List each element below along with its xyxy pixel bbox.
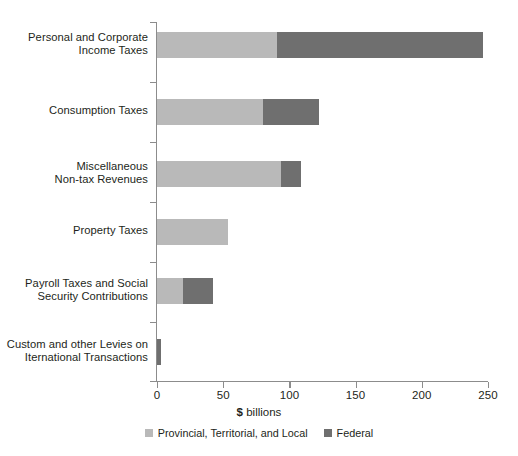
x-axis-title: $ billions <box>0 406 518 418</box>
x-axis-line <box>157 381 488 382</box>
x-axis-tick-label-0: 0 <box>127 389 187 401</box>
bar-segment-provincial <box>157 219 228 245</box>
bar-segment-provincial <box>157 32 277 58</box>
bar-row <box>157 219 488 245</box>
legend-swatch-icon <box>324 429 332 437</box>
x-axis-tick-100 <box>289 382 290 388</box>
legend-label: Federal <box>337 427 374 439</box>
category-label-0: Personal and Corporate Income Taxes <box>28 31 148 58</box>
x-axis-tick-label-200: 200 <box>392 389 452 401</box>
category-label-2: Miscellaneous Non-tax Revenues <box>55 160 148 187</box>
y-axis-tick-6 <box>150 381 157 382</box>
bar-segment-federal <box>263 99 319 125</box>
legend-swatch-icon <box>145 429 153 437</box>
x-axis-tick-label-50: 50 <box>193 389 253 401</box>
bar-segment-provincial <box>157 161 281 187</box>
chart-figure: 050100150200250 Personal and Corporate I… <box>0 0 518 456</box>
x-axis-tick-50 <box>223 382 224 388</box>
x-axis-tick-150 <box>356 382 357 388</box>
bar-segment-federal <box>183 278 212 304</box>
legend-item-0[interactable]: Provincial, Territorial, and Local <box>145 427 308 439</box>
chart-legend: Provincial, Territorial, and LocalFedera… <box>0 427 518 439</box>
category-label-3: Property Taxes <box>73 224 148 237</box>
x-axis-tick-label-150: 150 <box>326 389 386 401</box>
bar-row <box>157 278 488 304</box>
bar-segment-provincial <box>157 99 263 125</box>
y-axis-tick-5 <box>150 322 157 323</box>
bar-row <box>157 339 488 365</box>
x-axis-title-unit: billions <box>243 406 281 418</box>
y-axis-tick-2 <box>150 142 157 143</box>
category-label-4: Payroll Taxes and Social Security Contri… <box>25 277 148 304</box>
y-axis-tick-3 <box>150 202 157 203</box>
x-axis-tick-label-100: 100 <box>259 389 319 401</box>
x-axis-tick-label-250: 250 <box>458 389 518 401</box>
category-label-5: Custom and other Levies on Iternational … <box>7 338 148 365</box>
category-label-1: Consumption Taxes <box>49 104 148 117</box>
bar-row <box>157 161 488 187</box>
x-axis-tick-200 <box>422 382 423 388</box>
y-axis-tick-4 <box>150 262 157 263</box>
x-axis-tick-250 <box>488 382 489 388</box>
bar-segment-federal <box>157 339 161 365</box>
y-axis-tick-1 <box>150 82 157 83</box>
legend-item-1[interactable]: Federal <box>324 427 374 439</box>
bar-segment-provincial <box>157 278 183 304</box>
bar-row <box>157 99 488 125</box>
y-axis-tick-0 <box>150 22 157 23</box>
bar-row <box>157 32 488 58</box>
bar-segment-federal <box>277 32 482 58</box>
x-axis-tick-0 <box>157 382 158 388</box>
bar-segment-federal <box>281 161 301 187</box>
legend-label: Provincial, Territorial, and Local <box>158 427 308 439</box>
